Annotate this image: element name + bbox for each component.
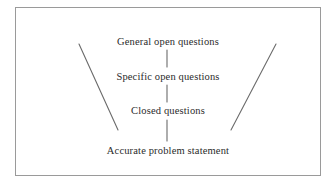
funnel-level-label-general-open-questions: General open questions	[0, 36, 336, 48]
funnel-level-label-closed-questions: Closed questions	[0, 105, 336, 117]
funnel-level-label-specific-open-questions: Specific open questions	[0, 71, 336, 83]
diagram-canvas: General open questions Specific open que…	[0, 0, 336, 187]
funnel-level-label-accurate-problem-statement: Accurate problem statement	[0, 145, 336, 157]
